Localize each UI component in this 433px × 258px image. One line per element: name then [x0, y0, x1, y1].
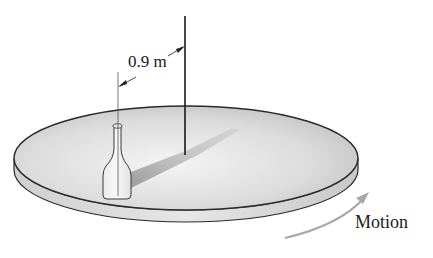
- arrowhead-left-icon: [118, 80, 127, 87]
- dimension-label: 0.9 m: [128, 52, 167, 72]
- motion-label: Motion: [355, 212, 408, 233]
- motion-arrowhead-icon: [356, 192, 369, 204]
- turntable-diagram: 0.9 m Motion: [0, 0, 433, 258]
- disk: [14, 106, 358, 222]
- bottle-cap: [113, 124, 122, 128]
- arrowhead-right-icon: [176, 46, 185, 53]
